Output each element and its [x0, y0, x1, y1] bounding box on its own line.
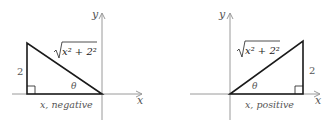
right-right-angle-marker [295, 86, 303, 94]
right-diagram: y x 2 θ x, positive x² + 2² [190, 8, 322, 120]
left-x-axis-label: x [137, 94, 144, 107]
right-side-label: 2 [309, 65, 315, 76]
left-right-angle-marker [27, 86, 35, 94]
right-y-axis-label: y [218, 8, 226, 21]
left-y-axis-label: y [91, 8, 99, 21]
right-hypotenuse-label: x² + 2² [245, 45, 280, 56]
right-angle-label: θ [252, 81, 258, 91]
left-angle-label: θ [71, 81, 77, 91]
left-diagram: y x 2 θ x, negative x² + 2² [12, 8, 144, 120]
left-base-label: x, negative [40, 99, 93, 110]
left-side-label: 2 [17, 66, 23, 77]
right-x-axis-label: x [315, 94, 322, 107]
left-hypotenuse-label: x² + 2² [62, 46, 97, 57]
triangle-diagrams: y x 2 θ x, negative x² + 2² y x 2 θ x, p… [0, 0, 333, 128]
right-base-label: x, positive [245, 99, 294, 110]
